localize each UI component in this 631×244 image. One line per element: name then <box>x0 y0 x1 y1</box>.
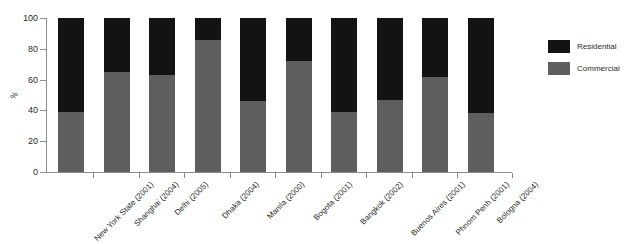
bar-segment-commercial <box>286 61 312 172</box>
x-axis-category-label: Bogota (2001) <box>311 180 353 222</box>
legend-item-residential[interactable]: Residential <box>548 40 620 53</box>
bar-8 <box>377 18 403 172</box>
legend-item-commercial[interactable]: Commercial <box>548 62 620 75</box>
bar-segment-commercial <box>104 72 130 172</box>
bar-segment-commercial <box>422 77 448 172</box>
bar-segment-commercial <box>240 101 266 172</box>
legend-label-commercial: Commercial <box>577 64 620 73</box>
bar-segment-residential <box>195 18 221 40</box>
bar-segment-residential <box>286 18 312 61</box>
bar-segment-residential <box>468 18 494 113</box>
y-axis-tick-label: 0 <box>4 168 38 177</box>
bar-segment-commercial <box>468 113 494 172</box>
bar-7 <box>331 18 357 172</box>
x-axis-tick-mark <box>275 173 276 178</box>
bar-segment-commercial <box>377 100 403 172</box>
bar-segment-residential <box>149 18 175 75</box>
legend-swatch-residential <box>548 40 570 53</box>
bar-segment-commercial <box>149 75 175 172</box>
x-axis-tick-mark <box>366 173 367 178</box>
x-axis-line <box>46 172 512 173</box>
bar-segment-commercial <box>195 40 221 172</box>
legend-swatch-commercial <box>548 62 570 75</box>
x-axis-tick-mark <box>93 173 94 178</box>
bar-segment-residential <box>104 18 130 72</box>
stacked-bar-chart: % 100806040200 New York State (2001)Shan… <box>0 0 631 244</box>
y-axis-tick-label-wrap: 40 <box>0 106 38 115</box>
y-axis-tick-label-wrap: 100 <box>0 14 38 23</box>
bar-5 <box>240 18 266 172</box>
y-axis-tick-label: 40 <box>4 106 38 115</box>
bar-6 <box>286 18 312 172</box>
y-axis-tick-label: 80 <box>4 45 38 54</box>
bar-4 <box>195 18 221 172</box>
legend-label-residential: Residential <box>577 42 617 51</box>
chart-legend: ResidentialCommercial <box>548 40 620 84</box>
y-axis-tick-label-wrap: 80 <box>0 45 38 54</box>
x-axis-tick-mark <box>512 173 513 178</box>
x-axis-category-label: Shanghai (2004) <box>132 180 180 228</box>
x-axis-tick-mark <box>230 173 231 178</box>
bar-9 <box>422 18 448 172</box>
y-axis-tick-label-wrap: 20 <box>0 137 38 146</box>
x-axis-category-label: Bangkok (2002) <box>359 180 405 226</box>
x-axis-tick-mark <box>321 173 322 178</box>
x-axis-category-label: Manila (2000) <box>265 180 306 221</box>
x-axis-tick-mark <box>139 173 140 178</box>
bar-segment-residential <box>422 18 448 77</box>
y-axis-tick-label-wrap: 60 <box>0 76 38 85</box>
bar-3 <box>149 18 175 172</box>
bar-segment-commercial <box>331 112 357 172</box>
y-axis-tick-label: 20 <box>4 137 38 146</box>
x-axis-tick-mark <box>457 173 458 178</box>
bar-2 <box>104 18 130 172</box>
bar-segment-residential <box>58 18 84 112</box>
x-axis-tick-mark <box>412 173 413 178</box>
y-axis-tick-label: 100 <box>4 14 38 23</box>
y-axis-tick-label-wrap: 0 <box>0 168 38 177</box>
x-axis-category-label: Dhaka (2004) <box>220 180 261 221</box>
bar-segment-residential <box>331 18 357 112</box>
y-axis-title: % <box>9 91 20 101</box>
bar-1 <box>58 18 84 172</box>
bar-segment-commercial <box>58 112 84 172</box>
bar-segment-residential <box>240 18 266 101</box>
x-axis-tick-mark <box>184 173 185 178</box>
bar-segment-residential <box>377 18 403 100</box>
y-axis-tick-label: 60 <box>4 76 38 85</box>
plot-area <box>46 18 512 172</box>
bar-10 <box>468 18 494 172</box>
